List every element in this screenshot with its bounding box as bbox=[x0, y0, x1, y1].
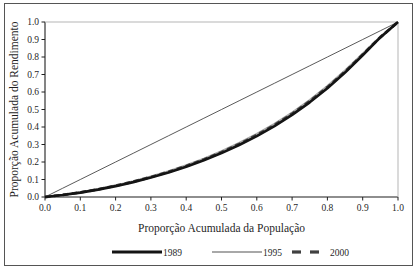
x-tick-label: 0.5 bbox=[216, 203, 228, 213]
legend-label-1995: 1995 bbox=[263, 248, 282, 258]
legend-label-1989: 1989 bbox=[163, 248, 182, 258]
y-tick-label: 0.9 bbox=[27, 35, 39, 45]
x-tick-label: 0.0 bbox=[39, 203, 51, 213]
x-tick-label: 1.0 bbox=[392, 203, 404, 213]
chart-legend: 198919952000 bbox=[112, 248, 349, 258]
y-tick-label: 0.8 bbox=[27, 52, 39, 62]
y-tick-label: 1.0 bbox=[27, 17, 39, 27]
chart-canvas: 0.00.10.20.30.40.50.60.70.80.91.0 0.00.1… bbox=[0, 0, 417, 270]
x-tick-label: 0.6 bbox=[251, 203, 263, 213]
x-tick-label: 0.3 bbox=[145, 203, 157, 213]
x-tick-label: 0.9 bbox=[357, 203, 369, 213]
y-tick-label: 0.4 bbox=[27, 122, 39, 132]
x-tick-label: 0.8 bbox=[321, 203, 333, 213]
y-tick-label: 0.5 bbox=[27, 105, 39, 115]
x-tick-label: 0.2 bbox=[110, 203, 122, 213]
y-tick-label: 0.3 bbox=[27, 140, 39, 150]
y-tick-label: 0.7 bbox=[27, 70, 39, 80]
y-tick-label: 0.0 bbox=[27, 192, 39, 202]
y-tick-label: 0.1 bbox=[27, 175, 39, 185]
x-tick-label: 0.4 bbox=[180, 203, 192, 213]
x-tick-label: 0.7 bbox=[286, 203, 298, 213]
y-axis-tick-labels: 0.00.10.20.30.40.50.60.70.80.91.0 bbox=[27, 17, 39, 202]
y-tick-label: 0.6 bbox=[27, 87, 39, 97]
y-axis-title: Proporção Acumulada do Rendimento bbox=[8, 21, 21, 197]
x-axis-title: Proporção Acumulada da População bbox=[138, 222, 305, 235]
legend-label-2000: 2000 bbox=[330, 248, 349, 258]
y-tick-label: 0.2 bbox=[27, 157, 39, 167]
x-axis-tick-labels: 0.00.10.20.30.40.50.60.70.80.91.0 bbox=[39, 203, 404, 213]
x-tick-label: 0.1 bbox=[74, 203, 86, 213]
lorenz-curve-figure: 0.00.10.20.30.40.50.60.70.80.91.0 0.00.1… bbox=[0, 0, 417, 270]
